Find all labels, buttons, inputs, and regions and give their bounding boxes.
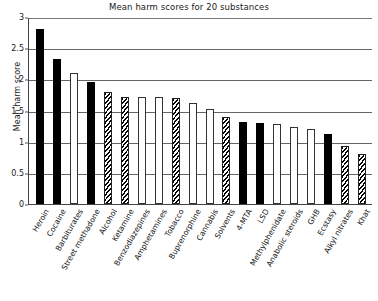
bar-slot <box>167 18 184 204</box>
bar[interactable] <box>138 97 146 204</box>
bar-slot <box>286 18 303 204</box>
bar[interactable] <box>341 146 349 204</box>
x-tick-label: 4-MTA <box>235 208 254 232</box>
y-tick-label: 3 <box>19 14 24 22</box>
bar-slot <box>218 18 235 204</box>
y-tick-label: 0 <box>19 201 24 209</box>
bar[interactable] <box>87 82 95 204</box>
bar-slot <box>150 18 167 204</box>
bar-slot <box>83 18 100 204</box>
bar-slot <box>49 18 66 204</box>
x-tick-label: GHB <box>306 208 321 227</box>
chart-figure: Mean harm scores for 20 substances Mean … <box>0 0 378 301</box>
y-tick-label: 1 <box>19 139 24 147</box>
bar-slot <box>32 18 49 204</box>
bar-slot <box>319 18 336 204</box>
bar-slot <box>184 18 201 204</box>
y-axis-ticks: 00.511.522.53 <box>0 18 28 205</box>
bar-slot <box>66 18 83 204</box>
bar-slot <box>252 18 269 204</box>
y-tick-label: 2.5 <box>11 45 24 53</box>
bar[interactable] <box>222 117 230 204</box>
chart-title: Mean harm scores for 20 substances <box>0 2 378 12</box>
bar-slot <box>133 18 150 204</box>
y-tick-label: 2 <box>19 76 24 84</box>
bar[interactable] <box>358 154 366 204</box>
bar-slot <box>235 18 252 204</box>
bar[interactable] <box>53 59 61 204</box>
bar[interactable] <box>273 124 281 204</box>
bar[interactable] <box>307 129 315 204</box>
bar-slot <box>117 18 134 204</box>
bar[interactable] <box>189 103 197 204</box>
bar[interactable] <box>206 109 214 204</box>
plot-area <box>28 18 372 205</box>
bar[interactable] <box>324 134 332 204</box>
bar-slot <box>353 18 370 204</box>
bar[interactable] <box>104 92 112 204</box>
bar[interactable] <box>290 127 298 204</box>
bar[interactable] <box>256 123 264 204</box>
y-tick-label: 0.5 <box>11 170 24 178</box>
x-tick-label: LSD <box>256 208 270 225</box>
bar[interactable] <box>155 97 163 204</box>
bar-slot <box>100 18 117 204</box>
bar-slot <box>303 18 320 204</box>
bar[interactable] <box>121 97 129 204</box>
x-axis-labels: HeroinCocaineBarbituratesStreet methadon… <box>28 206 372 301</box>
bar[interactable] <box>172 98 180 204</box>
bar-slot <box>336 18 353 204</box>
bar[interactable] <box>239 122 247 204</box>
bar-series <box>29 18 372 204</box>
x-tick-label: Khat <box>356 208 372 227</box>
bar[interactable] <box>36 29 44 204</box>
bar-slot <box>201 18 218 204</box>
y-tick-label: 1.5 <box>11 108 24 116</box>
bar[interactable] <box>70 73 78 204</box>
bar-slot <box>269 18 286 204</box>
